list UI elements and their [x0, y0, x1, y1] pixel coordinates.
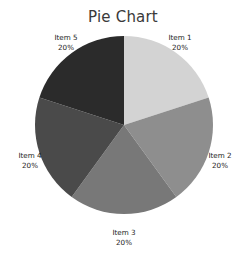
- pie-chart-figure: Pie Chart Item 1 20% Item 2 20% Item 3 2…: [0, 0, 246, 261]
- slice-label-item-2: Item 2 20%: [196, 151, 244, 170]
- pie-slice-group: [35, 36, 213, 214]
- slice-label-item-4-name: Item 4: [6, 151, 54, 161]
- slice-label-item-5-value: 20%: [38, 43, 94, 53]
- slice-label-item-5-name: Item 5: [38, 33, 94, 43]
- slice-label-item-4-value: 20%: [6, 161, 54, 171]
- pie-chart-canvas: [0, 0, 246, 261]
- slice-label-item-2-value: 20%: [196, 161, 244, 171]
- slice-label-item-1-name: Item 1: [152, 33, 208, 43]
- slice-label-item-3: Item 3 20%: [96, 228, 152, 247]
- slice-label-item-1: Item 1 20%: [152, 33, 208, 52]
- slice-label-item-2-name: Item 2: [196, 151, 244, 161]
- slice-label-item-3-value: 20%: [96, 238, 152, 248]
- slice-label-item-4: Item 4 20%: [6, 151, 54, 170]
- slice-label-item-5: Item 5 20%: [38, 33, 94, 52]
- slice-label-item-3-name: Item 3: [96, 228, 152, 238]
- slice-label-item-1-value: 20%: [152, 43, 208, 53]
